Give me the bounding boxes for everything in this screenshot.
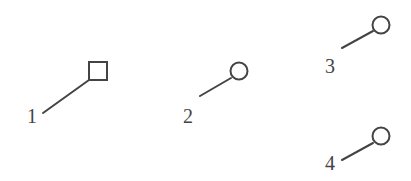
item-3-label: 3 (325, 56, 335, 76)
item-2-glyph (200, 63, 248, 97)
item-1-label: 1 (27, 106, 37, 126)
item-1-glyph (43, 62, 107, 113)
circle-outline-icon (373, 17, 390, 34)
item-1-connector-line (43, 80, 89, 113)
item-2-label: 2 (183, 106, 193, 126)
diagram-canvas: 1 2 3 4 (0, 0, 411, 181)
item-3-connector-line (342, 31, 373, 48)
circle-outline-icon (373, 128, 390, 145)
item-4-label: 4 (325, 153, 335, 173)
item-2-connector-line (200, 78, 231, 96)
circle-outline-icon (231, 63, 248, 80)
diagram-svg (0, 0, 411, 181)
square-outline-icon (89, 62, 107, 80)
item-4-glyph (342, 128, 390, 161)
item-3-glyph (342, 17, 390, 49)
item-4-connector-line (342, 143, 373, 160)
